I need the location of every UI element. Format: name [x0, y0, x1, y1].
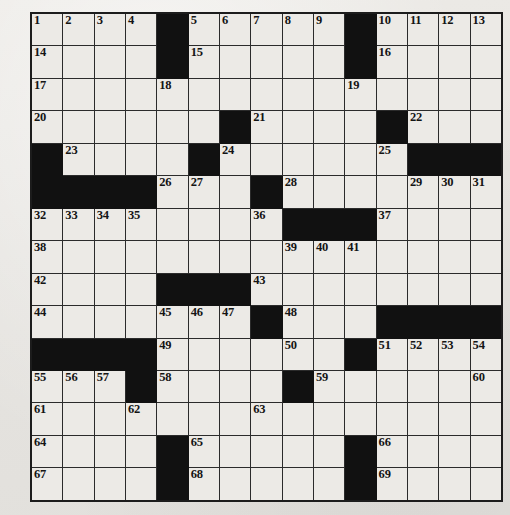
crossword-cell[interactable]: 18: [157, 78, 188, 110]
crossword-cell[interactable]: [313, 111, 344, 143]
crossword-cell[interactable]: [157, 111, 188, 143]
crossword-cell[interactable]: [345, 306, 376, 338]
crossword-cell[interactable]: 64: [31, 435, 63, 467]
crossword-cell[interactable]: 33: [63, 208, 94, 240]
crossword-cell[interactable]: [219, 468, 250, 501]
crossword-cell[interactable]: [219, 370, 250, 402]
crossword-cell[interactable]: [407, 78, 438, 110]
crossword-cell[interactable]: [188, 403, 219, 435]
crossword-cell[interactable]: 50: [282, 338, 313, 370]
crossword-cell[interactable]: [345, 403, 376, 435]
crossword-cell[interactable]: [407, 46, 438, 78]
crossword-cell[interactable]: 8: [282, 13, 313, 46]
crossword-cell[interactable]: [125, 78, 156, 110]
crossword-cell[interactable]: [439, 468, 470, 501]
crossword-cell[interactable]: [125, 435, 156, 467]
crossword-cell[interactable]: 49: [157, 338, 188, 370]
crossword-cell[interactable]: [407, 468, 438, 501]
crossword-cell[interactable]: 27: [188, 176, 219, 208]
crossword-cell[interactable]: 3: [94, 13, 125, 46]
crossword-cell[interactable]: [407, 370, 438, 402]
crossword-cell[interactable]: [439, 208, 470, 240]
crossword-cell[interactable]: 45: [157, 306, 188, 338]
crossword-cell[interactable]: [63, 241, 94, 273]
crossword-cell[interactable]: 9: [313, 13, 344, 46]
crossword-cell[interactable]: [470, 46, 502, 78]
crossword-cell[interactable]: [376, 403, 407, 435]
crossword-cell[interactable]: [63, 78, 94, 110]
crossword-cell[interactable]: [282, 143, 313, 175]
crossword-cell[interactable]: [313, 46, 344, 78]
crossword-cell[interactable]: [470, 273, 502, 305]
crossword-cell[interactable]: [313, 435, 344, 467]
crossword-cell[interactable]: 2: [63, 13, 94, 46]
crossword-cell[interactable]: [219, 241, 250, 273]
crossword-cell[interactable]: 14: [31, 46, 63, 78]
crossword-cell[interactable]: [63, 435, 94, 467]
crossword-cell[interactable]: [219, 78, 250, 110]
crossword-cell[interactable]: [188, 208, 219, 240]
crossword-cell[interactable]: [282, 111, 313, 143]
crossword-cell[interactable]: [407, 241, 438, 273]
crossword-cell[interactable]: [125, 111, 156, 143]
crossword-cell[interactable]: [376, 370, 407, 402]
crossword-cell[interactable]: [376, 78, 407, 110]
crossword-cell[interactable]: 25: [376, 143, 407, 175]
crossword-cell[interactable]: [94, 468, 125, 501]
crossword-cell[interactable]: [407, 403, 438, 435]
crossword-cell[interactable]: [94, 435, 125, 467]
crossword-cell[interactable]: [439, 46, 470, 78]
crossword-cell[interactable]: 34: [94, 208, 125, 240]
crossword-cell[interactable]: 54: [470, 338, 502, 370]
crossword-cell[interactable]: [251, 241, 282, 273]
crossword-cell[interactable]: 48: [282, 306, 313, 338]
crossword-cell[interactable]: 10: [376, 13, 407, 46]
crossword-cell[interactable]: [282, 78, 313, 110]
crossword-cell[interactable]: 4: [125, 13, 156, 46]
crossword-cell[interactable]: 53: [439, 338, 470, 370]
crossword-cell[interactable]: 68: [188, 468, 219, 501]
crossword-cell[interactable]: 11: [407, 13, 438, 46]
crossword-cell[interactable]: [313, 468, 344, 501]
crossword-cell[interactable]: [470, 435, 502, 467]
crossword-cell[interactable]: 40: [313, 241, 344, 273]
crossword-cell[interactable]: [439, 370, 470, 402]
crossword-cell[interactable]: 69: [376, 468, 407, 501]
crossword-cell[interactable]: [125, 306, 156, 338]
crossword-cell[interactable]: [125, 273, 156, 305]
crossword-cell[interactable]: [251, 468, 282, 501]
crossword-cell[interactable]: [313, 176, 344, 208]
crossword-cell[interactable]: 15: [188, 46, 219, 78]
crossword-cell[interactable]: [94, 111, 125, 143]
crossword-cell[interactable]: [282, 273, 313, 305]
crossword-cell[interactable]: 26: [157, 176, 188, 208]
crossword-cell[interactable]: [94, 143, 125, 175]
crossword-cell[interactable]: 31: [470, 176, 502, 208]
crossword-cell[interactable]: [188, 338, 219, 370]
crossword-cell[interactable]: 36: [251, 208, 282, 240]
crossword-cell[interactable]: [125, 468, 156, 501]
crossword-cell[interactable]: [63, 46, 94, 78]
crossword-cell[interactable]: [345, 111, 376, 143]
crossword-cell[interactable]: [251, 338, 282, 370]
crossword-cell[interactable]: [407, 435, 438, 467]
crossword-cell[interactable]: 46: [188, 306, 219, 338]
crossword-cell[interactable]: 60: [470, 370, 502, 402]
crossword-cell[interactable]: 44: [31, 306, 63, 338]
crossword-cell[interactable]: [219, 46, 250, 78]
crossword-cell[interactable]: [94, 403, 125, 435]
crossword-cell[interactable]: 30: [439, 176, 470, 208]
crossword-cell[interactable]: 55: [31, 370, 63, 402]
crossword-cell[interactable]: [470, 78, 502, 110]
crossword-cell[interactable]: [407, 273, 438, 305]
crossword-cell[interactable]: 62: [125, 403, 156, 435]
crossword-cell[interactable]: [125, 241, 156, 273]
crossword-cell[interactable]: [282, 468, 313, 501]
crossword-cell[interactable]: [94, 273, 125, 305]
crossword-cell[interactable]: [188, 241, 219, 273]
crossword-cell[interactable]: [470, 111, 502, 143]
crossword-cell[interactable]: [470, 403, 502, 435]
crossword-cell[interactable]: 58: [157, 370, 188, 402]
crossword-cell[interactable]: [376, 241, 407, 273]
crossword-cell[interactable]: 23: [63, 143, 94, 175]
